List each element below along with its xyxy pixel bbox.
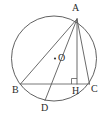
vertex-label-a: A [72,3,79,13]
right-angle-mark-at-h [72,79,78,85]
geometry-canvas [0,0,105,123]
vertex-label-o: O [58,53,65,63]
vertex-label-c: C [91,84,98,94]
segment-ac [77,19,90,84]
vertex-label-d: D [41,103,48,113]
center-point-dot [54,57,56,59]
vertex-label-b: B [12,85,19,95]
vertex-label-h: H [72,86,79,96]
geometry-figure: A O B H C D [0,0,105,123]
segment-ab [21,19,78,84]
